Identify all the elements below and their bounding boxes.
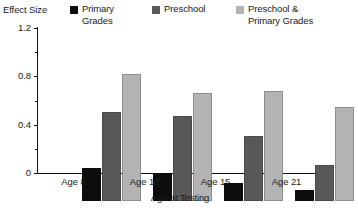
bar[interactable] <box>335 107 354 201</box>
x-tick-label: Age 21 <box>251 176 322 190</box>
x-axis-tick-labels: Age 8Age 12Age 15Age 21 <box>38 176 322 190</box>
y-axis-title: Effect Size <box>3 4 47 15</box>
plot-area <box>38 28 322 173</box>
legend-item-primary-grades: Primary Grades <box>70 3 152 26</box>
legend-label-preschool: Preschool <box>164 3 205 15</box>
legend-item-preschool-and-primary-grades: Preschool & Primary Grades <box>236 3 326 26</box>
legend-swatch-icon-preschool-and-primary-grades <box>236 6 244 14</box>
y-tick-major <box>34 173 38 174</box>
x-axis-title: Age at Testing <box>38 192 322 204</box>
y-tick-label: 0.4 <box>18 120 31 130</box>
legend-swatch-icon-primary-grades <box>70 6 78 14</box>
legend-label-preschool-and-primary-grades: Preschool & Primary Grades <box>248 3 313 26</box>
x-tick-label: Age 15 <box>180 176 251 190</box>
y-tick-label: 0 <box>26 168 31 178</box>
x-tick-label: Age 12 <box>109 176 180 190</box>
y-tick-label: 0.8 <box>18 72 31 82</box>
x-tick-label: Age 8 <box>38 176 109 190</box>
y-tick-label: 1.2 <box>18 23 31 33</box>
legend-swatch-icon-preschool <box>152 6 160 14</box>
legend-item-preschool: Preschool <box>152 3 236 15</box>
legend-label-primary-grades: Primary Grades <box>82 3 114 26</box>
